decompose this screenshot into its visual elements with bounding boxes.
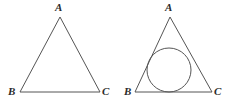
triangle-outline [135,17,212,92]
vertex-label-c: C [102,86,109,97]
vertex-label-b: B [124,86,131,97]
figure-triangle-abc: A B C [0,0,115,111]
triangle-abc-incircle-drawing [115,0,242,111]
vertex-label-a: A [55,2,62,13]
inscribed-circle [147,48,191,92]
vertex-label-c: C [214,86,221,97]
figure-triangle-abc-with-incircle: A B C [115,0,242,111]
geometry-figure-sheet: A B C A B C [0,0,242,111]
triangle-outline [20,17,100,92]
triangle-abc-drawing [0,0,115,111]
vertex-label-a: A [165,2,172,13]
vertex-label-b: B [8,86,15,97]
